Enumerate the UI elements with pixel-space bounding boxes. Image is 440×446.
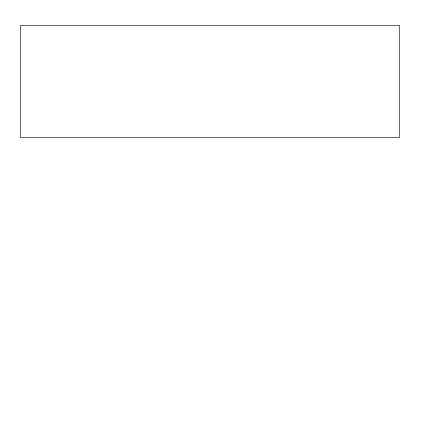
figure-outline [19, 24, 400, 138]
